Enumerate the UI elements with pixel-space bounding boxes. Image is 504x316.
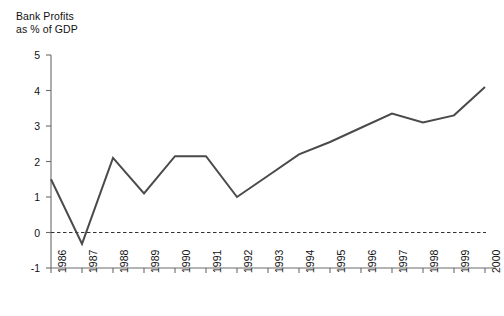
chart-container: Bank Profits as % of GDP 5 4 3 2 1 0 -1 … xyxy=(0,0,504,316)
plot-area xyxy=(0,0,504,316)
data-series-line xyxy=(51,87,485,244)
y-axis-ticks xyxy=(46,55,51,268)
x-axis-ticks xyxy=(51,268,485,273)
